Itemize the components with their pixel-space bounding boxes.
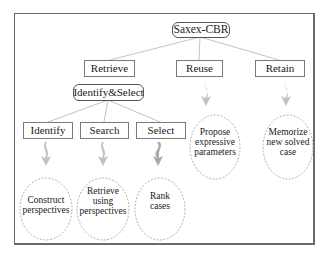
method-construct-line1: Construct xyxy=(28,195,65,205)
method-retrieve-using: Retrieve using perspectives xyxy=(75,183,131,219)
method-retrieve-using-line1: Retrieve xyxy=(87,186,119,196)
method-memorize: Memorize new solved case xyxy=(261,124,315,160)
phase-retain-label: Retain xyxy=(266,63,295,74)
method-construct: Construct perspectives xyxy=(18,190,74,220)
phase-reuse-node: Reuse xyxy=(176,60,223,77)
root-connectors xyxy=(110,37,279,60)
method-retrieve-using-line2: using xyxy=(93,196,114,206)
method-memorize-line2: new solved xyxy=(266,137,309,147)
method-rank-line2: cases xyxy=(150,201,170,211)
method-retrieve-using-line3: perspectives xyxy=(80,206,127,216)
task-identify-node: Identify xyxy=(23,122,73,139)
task-identify-label: Identify xyxy=(31,125,66,136)
subprocess-connectors xyxy=(48,100,160,122)
method-rank: Rank cases xyxy=(135,186,185,216)
method-propose-line1: Propose xyxy=(200,127,231,137)
method-rank-line1: Rank xyxy=(150,191,170,201)
root-label: Saxex-CBR xyxy=(174,24,229,36)
method-construct-line2: perspectives xyxy=(23,205,70,215)
arrow-retain-icon xyxy=(281,80,291,106)
task-select-label: Select xyxy=(148,125,175,136)
method-propose-line3: parameters xyxy=(194,147,236,157)
phase-reuse-label: Reuse xyxy=(186,63,213,74)
method-propose-line2: expressive xyxy=(195,137,235,147)
phase-retain-node: Retain xyxy=(255,60,305,77)
arrow-reuse-icon xyxy=(201,80,211,106)
phase-retrieve-label: Retrieve xyxy=(91,63,128,74)
subprocess-node: Identify&Select xyxy=(73,84,144,101)
task-search-label: Search xyxy=(90,125,120,136)
method-propose: Propose expressive parameters xyxy=(188,124,242,160)
arrow-search-icon xyxy=(98,142,108,166)
subprocess-label: Identify&Select xyxy=(73,87,143,98)
method-memorize-line1: Memorize xyxy=(268,127,307,137)
task-search-node: Search xyxy=(80,122,129,139)
arrow-select-icon xyxy=(153,142,163,166)
root-node: Saxex-CBR xyxy=(172,22,230,38)
task-select-node: Select xyxy=(136,122,186,139)
method-memorize-line3: case xyxy=(280,147,296,157)
phase-retrieve-node: Retrieve xyxy=(84,60,135,77)
arrow-identify-icon xyxy=(41,142,51,166)
